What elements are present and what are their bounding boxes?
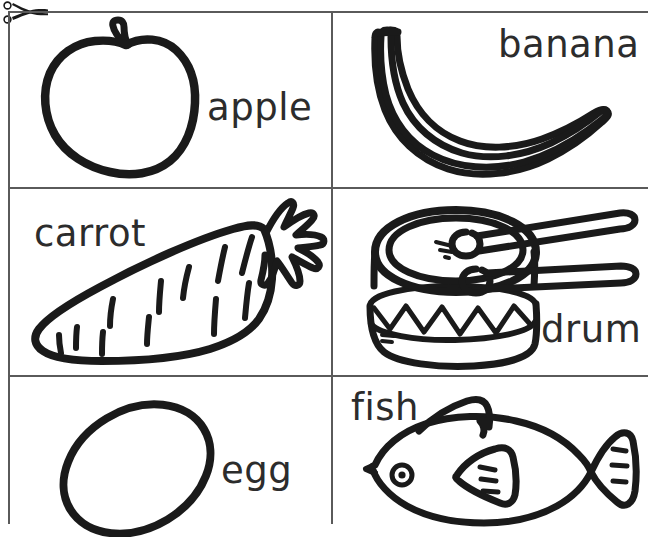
card-fish[interactable]: fish [333,377,648,524]
card-label-egg: egg [221,452,292,489]
card-label-carrot: carrot [34,215,146,252]
egg-drawing [45,397,245,537]
card-carrot[interactable]: carrot [10,189,331,375]
apple-drawing [30,18,210,183]
card-label-drum: drum [541,311,641,348]
card-label-banana: banana [498,26,639,63]
card-egg[interactable]: egg [10,377,331,524]
card-drum[interactable]: drum [333,189,648,375]
card-apple[interactable]: apple [10,13,331,187]
card-label-apple: apple [207,89,312,126]
card-banana[interactable]: banana [333,13,648,187]
card-label-fish: fish [351,389,419,426]
